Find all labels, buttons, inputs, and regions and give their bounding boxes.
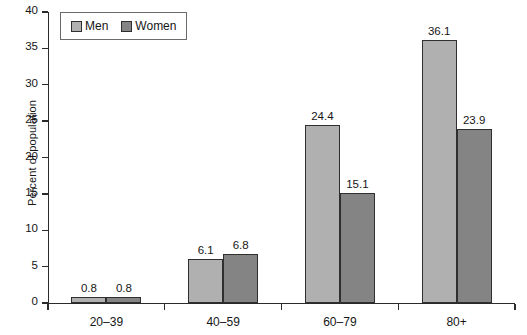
y-axis-tick — [42, 193, 48, 194]
bar-value-label: 23.9 — [463, 114, 485, 126]
y-axis-tick-label: 40 — [0, 4, 38, 16]
bar-women-3 — [457, 129, 492, 303]
legend-swatch-icon — [121, 21, 132, 32]
y-axis-tick-label: 5 — [0, 259, 38, 271]
bar-value-label: 6.8 — [233, 239, 249, 251]
y-axis-tick-label: 35 — [0, 40, 38, 52]
y-axis-line — [48, 12, 49, 304]
bar-value-label: 0.8 — [116, 282, 132, 294]
x-axis-category-label: 40–59 — [206, 315, 239, 329]
y-axis-tick — [42, 48, 48, 49]
y-axis-tick-label: 30 — [0, 77, 38, 89]
y-axis-tick — [42, 157, 48, 158]
chart-legend: MenWomen — [60, 12, 187, 40]
y-axis-tick — [42, 230, 48, 231]
y-axis-tick — [42, 266, 48, 267]
bar-value-label: 15.1 — [346, 178, 368, 190]
y-axis-tick — [42, 120, 48, 121]
bar-value-label: 24.4 — [311, 110, 333, 122]
bar-men-0 — [71, 297, 106, 303]
bar-women-1 — [223, 254, 258, 303]
legend-label: Women — [135, 19, 176, 33]
bar-value-label: 36.1 — [428, 25, 450, 37]
y-axis-tick-label: 20 — [0, 150, 38, 162]
bar-women-0 — [106, 297, 141, 303]
x-axis-category-label: 80+ — [446, 315, 466, 329]
y-axis-tick-label: 25 — [0, 113, 38, 125]
x-axis-category-label: 60–79 — [323, 315, 356, 329]
y-axis-tick-label: 10 — [0, 222, 38, 234]
bar-value-label: 6.1 — [198, 244, 214, 256]
x-axis-tick — [398, 304, 399, 310]
legend-label: Men — [85, 19, 108, 33]
bar-men-1 — [188, 259, 223, 303]
y-axis-tick-label: 15 — [0, 186, 38, 198]
x-axis-tick — [281, 304, 282, 310]
y-axis-tick-label: 0 — [0, 295, 38, 307]
x-axis-tick — [514, 304, 515, 310]
bar-chart: Percent of population 0510152025303540 2… — [0, 0, 527, 335]
bar-men-2 — [305, 125, 340, 303]
x-axis-tick — [164, 304, 165, 310]
legend-swatch-icon — [71, 21, 82, 32]
x-axis-category-label: 20–39 — [90, 315, 123, 329]
legend-entry-men: Men — [71, 19, 108, 33]
legend-entry-women: Women — [121, 19, 176, 33]
y-axis-tick — [42, 84, 48, 85]
bar-women-2 — [340, 193, 375, 303]
x-axis-tick — [47, 304, 48, 310]
bar-value-label: 0.8 — [81, 282, 97, 294]
bar-men-3 — [422, 40, 457, 303]
y-axis-tick — [42, 11, 48, 12]
